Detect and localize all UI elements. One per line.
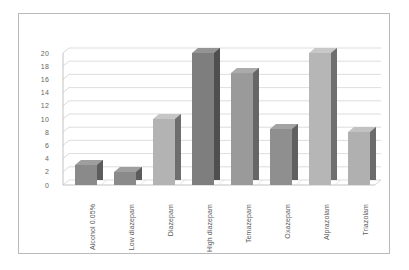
bar-front-face xyxy=(309,53,331,185)
chart-frame: 20 18 16 14 12 10 8 6 4 2 0 Alcohol 0.05… xyxy=(18,13,390,254)
category-label-7: Triazolam xyxy=(362,204,369,235)
category-label-0: Alcohol 0.05% xyxy=(89,204,96,250)
bar-front-face xyxy=(348,132,370,185)
bar-front-face xyxy=(231,73,253,185)
category-label-4: Temazepam xyxy=(245,204,252,243)
bar-front-face xyxy=(192,53,214,185)
bar-front-face xyxy=(75,165,97,185)
bar-triazolam[interactable] xyxy=(348,132,370,185)
category-axis-labels: Alcohol 0.05%Low diazepamDiazepamHigh di… xyxy=(19,200,391,255)
bar-front-face xyxy=(153,119,175,185)
bar-high-diazepam[interactable] xyxy=(192,53,214,185)
bar-front-face xyxy=(114,172,136,185)
bar-alprazolam[interactable] xyxy=(309,53,331,185)
bar-alcohol-0-05[interactable] xyxy=(75,165,97,185)
bar-temazepam[interactable] xyxy=(231,73,253,185)
bar-side-face xyxy=(292,124,298,180)
category-label-1: Low diazepam xyxy=(128,204,135,250)
category-label-5: Oxazepam xyxy=(284,204,291,239)
bar-side-face xyxy=(253,68,259,180)
category-label-2: Diazepam xyxy=(167,204,174,236)
plot-area: 20 18 16 14 12 10 8 6 4 2 0 Alcohol 0.05… xyxy=(19,14,391,255)
category-label-6: Alprazolam xyxy=(323,204,330,240)
bar-side-face xyxy=(175,114,181,180)
bar-side-face xyxy=(370,127,376,180)
bar-diazepam[interactable] xyxy=(153,119,175,185)
bar-front-face xyxy=(270,129,292,185)
bar-low-diazepam[interactable] xyxy=(114,172,136,185)
bar-side-face xyxy=(214,48,220,180)
category-label-3: High diazepam xyxy=(206,204,213,252)
bar-oxazepam[interactable] xyxy=(270,129,292,185)
bar-side-face xyxy=(331,48,337,180)
